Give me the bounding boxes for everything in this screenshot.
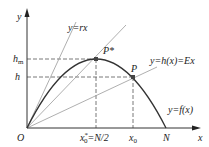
p-star-marker — [94, 57, 98, 61]
hm-label: hm — [13, 53, 24, 66]
y-arrow-icon — [25, 8, 30, 17]
curve-f-label: y=f(x) — [167, 104, 194, 116]
line-rx-label: y=rx — [67, 22, 88, 33]
x0-label: x0 — [128, 132, 137, 145]
h-label: h — [15, 71, 20, 82]
x-axis-label: x — [197, 132, 203, 143]
x0-star-label: x*0=N/2 — [79, 131, 109, 145]
x-arrow-icon — [192, 126, 201, 131]
line-through-p-star — [27, 25, 126, 128]
curve-f — [27, 59, 166, 128]
population-harvest-diagram: y x O y=rx y=h(x)=Ex y=f(x) P* P hm h x*… — [0, 0, 209, 147]
p-star-label: P* — [102, 45, 114, 56]
n-label: N — [162, 132, 171, 143]
line-ex-label: y=h(x)=Ex — [149, 55, 195, 67]
y-axis-label: y — [16, 11, 22, 22]
rays — [27, 22, 157, 128]
p-label: P — [130, 63, 137, 74]
line-rx — [27, 22, 76, 128]
origin-label: O — [17, 132, 24, 143]
p-marker — [131, 75, 135, 79]
line-ex — [27, 67, 157, 128]
